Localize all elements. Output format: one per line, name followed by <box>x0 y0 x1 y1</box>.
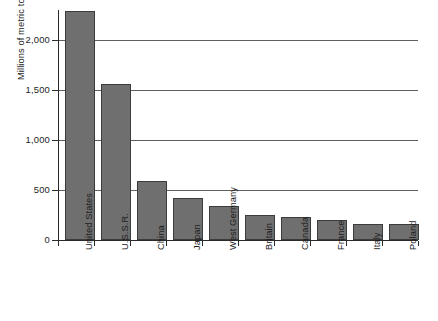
x-tick-mark <box>94 241 95 246</box>
x-tick-label: Japan <box>192 224 202 250</box>
y-tick-label: 500 <box>0 184 50 195</box>
y-tick-label: 1,000 <box>0 134 50 145</box>
x-tick-label: France <box>336 220 346 250</box>
x-tick-label: Canada <box>300 217 310 250</box>
x-tick-mark <box>346 241 347 246</box>
x-tick-label: West Germany <box>228 187 238 250</box>
x-tick-mark <box>310 241 311 246</box>
x-tick-mark <box>274 241 275 246</box>
x-tick-mark <box>166 241 167 246</box>
x-tick-mark <box>130 241 131 246</box>
y-tick-label: 2,000 <box>0 34 50 45</box>
x-tick-mark <box>202 241 203 246</box>
bars-group <box>58 10 418 240</box>
bar-chart: Millions of metric tons coal equivalent … <box>0 0 438 321</box>
x-tick-mark <box>238 241 239 246</box>
x-tick-label: United States <box>84 193 94 250</box>
x-tick-mark <box>382 241 383 246</box>
x-tick-label: Poland <box>408 220 418 250</box>
x-tick-label: China <box>156 225 166 250</box>
x-tick-label: Italy <box>372 232 382 250</box>
y-tick-label: 0 <box>0 234 50 245</box>
x-tick-label: Britain <box>264 223 274 250</box>
x-tick-mark <box>418 241 419 246</box>
x-tick-mark <box>58 241 59 246</box>
x-tick-label: U.S.S.R. <box>120 213 130 250</box>
y-tick-label: 1,500 <box>0 84 50 95</box>
